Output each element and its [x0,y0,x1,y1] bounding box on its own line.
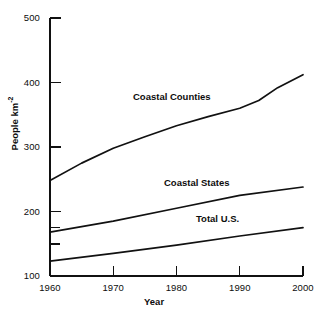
y-axis-title-exponent: -2 [7,97,14,103]
y-axis-title-base: People km [9,103,20,151]
x-tick-label-1960: 1960 [33,282,67,293]
series-line-total-us [50,228,303,262]
series-label-total-us: Total U.S. [196,213,239,224]
series-line-coastal-states [50,187,303,232]
y-tick-label-100: 100 [10,270,40,281]
y-axis-major-ticks [50,18,61,276]
series-label-coastal-counties: Coastal Counties [133,91,211,102]
x-tick-label-1980: 1980 [160,282,194,293]
series-label-coastal-states: Coastal States [164,177,229,188]
y-tick-label-400: 400 [10,77,40,88]
x-tick-label-1970: 1970 [96,282,130,293]
plot-area [0,0,326,318]
y-axis-title: People km-2 [9,94,20,154]
chart-container: 500 400 300 200 100 1960 1970 1980 1990 … [0,0,326,318]
x-axis-title: Year [144,296,164,307]
y-tick-label-500: 500 [10,12,40,23]
y-tick-label-200: 200 [10,206,40,217]
x-tick-label-1990: 1990 [223,282,257,293]
x-axis-major-ticks [50,266,303,276]
x-tick-label-2000: 2000 [286,282,320,293]
